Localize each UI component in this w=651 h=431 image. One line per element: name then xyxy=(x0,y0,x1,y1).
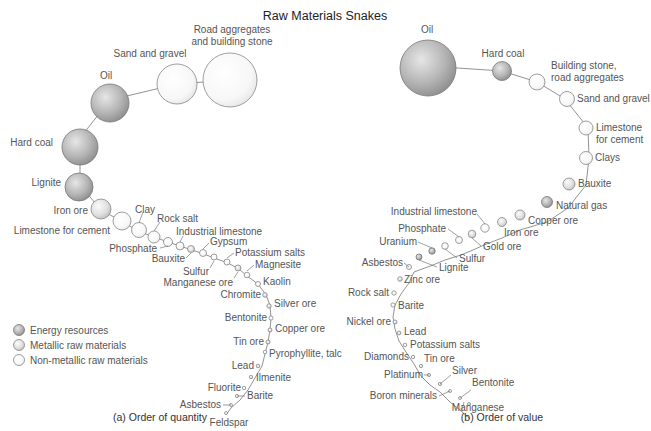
label-bauxite: Bauxite xyxy=(152,253,186,264)
label-gypsum: Gypsum xyxy=(210,236,247,247)
legend-nonmetallic-label: Non-metallic raw materials xyxy=(30,355,148,366)
node-sand-and-gravel xyxy=(157,64,197,104)
legend-metallic-label: Metallic raw materials xyxy=(30,340,126,351)
node-chromite xyxy=(263,293,268,298)
label-b-gold-ore: Gold ore xyxy=(483,241,522,252)
label-b-lead: Lead xyxy=(404,326,426,337)
legend-metallic-swatch-icon xyxy=(14,340,25,351)
node-phosphate xyxy=(164,238,173,247)
label-tin-ore: Tin ore xyxy=(233,336,264,347)
legend-energy-swatch-icon xyxy=(14,325,25,336)
label-b-phosphate: Phosphate xyxy=(398,223,446,234)
caption-order-of-value: (b) Order of value xyxy=(461,411,543,423)
label-b-silver: Silver xyxy=(452,365,478,376)
node-manganese-ore xyxy=(235,265,241,271)
label-b-uranium: Uranium xyxy=(379,236,417,247)
label-manganese-ore: Manganese ore xyxy=(164,277,234,288)
label-b-platinum: Platinum xyxy=(384,369,423,380)
label-b-bentonite: Bentonite xyxy=(472,377,515,388)
label-b-nickel-ore: Nickel ore xyxy=(347,316,392,327)
label-road-aggregates-1: Road aggregates xyxy=(194,24,271,35)
node-copper-ore xyxy=(268,328,272,332)
diagram-title: Raw Materials Snakes xyxy=(263,9,387,23)
node-lead xyxy=(256,364,260,368)
node-silver-ore xyxy=(267,304,271,308)
node-magnesite xyxy=(244,272,250,278)
label-phosphate: Phosphate xyxy=(109,243,157,254)
panel-a-order-of-quantity: Road aggregates and building stone Sand … xyxy=(10,24,342,428)
label-b-copper-ore: Copper ore xyxy=(528,215,578,226)
label-rock-salt: Rock salt xyxy=(157,213,198,224)
node-pyrophyllite-talc xyxy=(263,350,267,354)
label-barite: Barite xyxy=(247,390,274,401)
node-b-hard-coal xyxy=(493,62,512,81)
node-b-clays xyxy=(580,152,593,165)
label-b-zinc-ore: Zinc ore xyxy=(404,274,441,285)
node-lignite xyxy=(65,173,93,201)
node-gypsum xyxy=(200,250,207,257)
label-b-limestone-1: Limestone xyxy=(596,122,643,133)
label-sulfur: Sulfur xyxy=(183,266,210,277)
node-bauxite xyxy=(188,246,195,253)
node-b-zinc-ore xyxy=(398,277,403,282)
label-kaolin: Kaolin xyxy=(263,276,291,287)
node-b-barite xyxy=(391,303,395,307)
label-b-building-stone-1: Building stone, xyxy=(551,60,617,71)
label-lead: Lead xyxy=(232,360,254,371)
node-b-nickel-ore xyxy=(393,320,397,324)
label-pyrophyllite-talc: Pyrophyllite, talc xyxy=(269,348,342,359)
label-b-lignite: Lignite xyxy=(439,262,469,273)
node-b-iron-ore xyxy=(498,218,507,227)
node-b-tin-ore xyxy=(419,364,422,367)
node-b-sulfur xyxy=(442,243,449,250)
legend: Energy resources Metallic raw materials … xyxy=(14,325,148,367)
node-tin-ore xyxy=(266,340,270,344)
label-fluorite: Fluorite xyxy=(208,382,242,393)
node-bentonite xyxy=(269,316,273,320)
node-sulfur xyxy=(211,254,217,260)
node-b-uranium xyxy=(429,248,435,254)
node-ilmenite xyxy=(249,375,252,378)
label-b-asbestos: Asbestos xyxy=(362,257,403,268)
label-magnesite: Magnesite xyxy=(255,259,302,270)
node-b-diamonds xyxy=(411,355,414,358)
node-feldspar xyxy=(225,412,228,415)
panel-b-order-of-value: Oil Hard coal Building stone, road aggre… xyxy=(347,24,650,423)
label-iron-ore: Iron ore xyxy=(54,205,89,216)
node-oil xyxy=(91,84,129,122)
node-road-aggregates xyxy=(203,53,257,107)
node-kaolin xyxy=(256,282,261,287)
label-sand-and-gravel: Sand and gravel xyxy=(114,48,187,59)
node-b-limestone-for-cement xyxy=(579,121,593,135)
label-road-aggregates-2: and building stone xyxy=(191,36,273,47)
label-b-bauxite: Bauxite xyxy=(578,178,612,189)
node-b-industrial-limestone xyxy=(481,224,489,232)
node-b-oil xyxy=(400,40,456,96)
label-b-building-stone-2: road aggregates xyxy=(551,72,624,83)
node-rock-salt xyxy=(148,231,160,243)
node-fluorite xyxy=(242,386,245,389)
label-bentonite: Bentonite xyxy=(225,312,268,323)
label-potassium-salts: Potassium salts xyxy=(235,247,305,258)
label-feldspar: Feldspar xyxy=(210,417,250,428)
label-b-iron-ore: Iron ore xyxy=(504,227,539,238)
node-industrial-limestone xyxy=(176,242,184,250)
label-b-hard-coal: Hard coal xyxy=(482,48,525,59)
node-b-phosphate xyxy=(456,237,463,244)
label-b-tin-ore: Tin ore xyxy=(424,353,455,364)
node-b-building-stone xyxy=(529,74,545,90)
label-b-boron-minerals: Boron minerals xyxy=(370,390,437,401)
node-clay xyxy=(132,223,147,238)
legend-energy-label: Energy resources xyxy=(30,325,108,336)
label-b-diamonds: Diamonds xyxy=(364,351,409,362)
label-lignite: Lignite xyxy=(32,177,62,188)
label-copper-ore: Copper ore xyxy=(275,323,325,334)
label-b-clays: Clays xyxy=(595,152,620,163)
node-b-rock-salt xyxy=(392,291,396,295)
node-b-copper-ore xyxy=(515,210,525,220)
node-b-natural-gas xyxy=(542,197,553,208)
label-asbestos: Asbestos xyxy=(180,399,221,410)
node-b-lead xyxy=(397,331,401,335)
node-hard-coal xyxy=(62,129,98,165)
node-potassium-salts xyxy=(224,259,230,265)
